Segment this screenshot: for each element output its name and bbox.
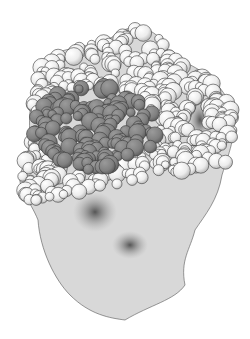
molecule-figure (0, 0, 250, 339)
